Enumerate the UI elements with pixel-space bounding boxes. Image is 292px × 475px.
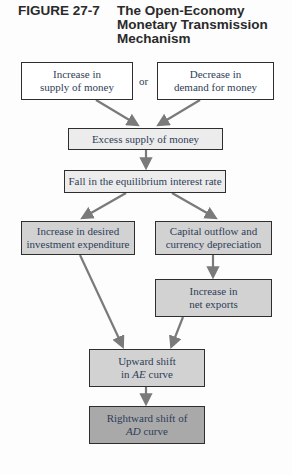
box-text: Increase in [40,68,114,81]
box-text: Capital outflow and [166,225,262,238]
box-text: investment expenditure [27,238,130,251]
box-text: Rightward shift of [107,412,188,425]
box-upward-shift-ae: Upward shift in AE curve [89,349,205,387]
box-text: net exports [189,298,238,311]
box-text: Upward shift [118,355,176,368]
box-excess-supply-of-money: Excess supply of money [68,128,223,150]
box-text: Decrease in [174,68,257,81]
or-connector: or [139,75,148,87]
box-text: Excess supply of money [92,133,199,146]
box-text: curve [141,425,168,437]
box-text: curve [146,368,173,380]
box-text-line2: in AE curve [118,368,176,381]
box-increase-supply-of-money: Increase insupply of money [21,62,133,100]
ae-label: AE [132,368,145,380]
box-text: currency depreciation [166,238,262,251]
box-text: Increase in [189,285,238,298]
box-rightward-shift-ad: Rightward shift of AD curve [89,406,205,444]
ad-label: AD [126,425,141,437]
box-increase-investment-expenditure: Increase in desiredinvestment expenditur… [21,221,135,255]
box-text-line2: AD curve [107,425,188,438]
box-text: Fall in the equilibrium interest rate [68,175,221,188]
box-text: demand for money [174,81,257,94]
box-text: in [121,368,132,380]
box-capital-outflow: Capital outflow andcurrency depreciation [155,221,272,255]
box-text: supply of money [40,81,114,94]
box-increase-net-exports: Increase innet exports [155,279,272,317]
box-decrease-demand-for-money: Decrease indemand for money [157,62,274,100]
box-fall-in-interest-rate: Fall in the equilibrium interest rate [64,170,226,193]
box-text: Increase in desired [27,225,130,238]
